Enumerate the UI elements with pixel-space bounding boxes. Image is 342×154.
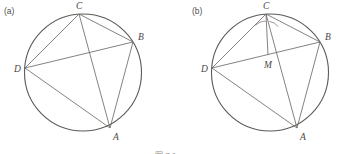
figure-caption-group: 图 7.1 <box>155 151 177 154</box>
panel-b-vertex-label-a: A <box>299 132 306 142</box>
segment-ad <box>212 68 297 128</box>
panel-b-vertex-label-c: C <box>263 1 270 11</box>
angle-arc-mca <box>269 21 278 26</box>
panel-a-vertex-label-b: B <box>138 32 144 42</box>
diagonal-db <box>25 42 133 68</box>
panel-a-vertex-label-a: A <box>112 132 119 142</box>
panel-b-label: (b) <box>192 6 203 16</box>
panel-b-circle <box>212 14 329 131</box>
panel-a-vertex-label-c: C <box>76 1 83 11</box>
diagonal-ca <box>79 14 110 128</box>
panel-a-vertex-label-d: D <box>13 64 21 74</box>
panel-a: (a) C B D A <box>4 1 144 142</box>
segment-ad <box>25 68 110 128</box>
panel-b-vertex-label-d: D <box>200 64 208 74</box>
segment-ba <box>297 42 320 128</box>
geometry-figure: (a) C B D A (b) <box>0 0 342 154</box>
panel-a-label: (a) <box>4 6 15 16</box>
panel-b: (b) C B D A M <box>192 1 331 142</box>
diagonal-ca <box>266 14 297 128</box>
panel-a-circle <box>25 14 142 131</box>
figure-canvas: (a) C B D A (b) <box>0 0 342 154</box>
panel-b-vertex-label-m: M <box>263 60 273 70</box>
panel-b-vertex-label-b: B <box>325 32 331 42</box>
figure-caption: 图 7.1 <box>155 151 177 154</box>
segment-ba <box>110 42 133 128</box>
